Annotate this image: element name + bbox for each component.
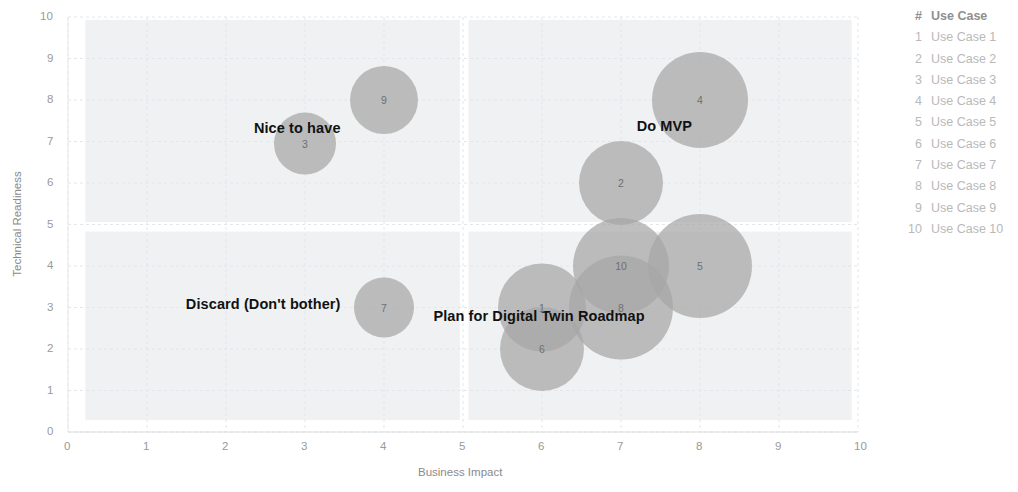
legend-row-num: 9 [898,198,931,219]
x-tick-0: 0 [64,440,70,452]
bubble-chart-page: Business Impact Technical Readiness 0123… [0,0,1018,492]
use-case-legend: # Use Case 1Use Case 12Use Case 23Use Ca… [898,6,1016,240]
x-tick-10: 10 [854,440,867,452]
legend-row-label: Use Case 10 [931,219,1016,240]
quadrant-label-discard: Discard (Don't bother) [186,296,341,312]
x-tick-4: 4 [380,440,386,452]
bubble-label-7: 7 [381,302,387,314]
x-tick-7: 7 [617,440,623,452]
bubble-label-3: 3 [302,138,308,150]
legend-row-label: Use Case 6 [931,134,1016,155]
legend-row[interactable]: 3Use Case 3 [898,70,1016,91]
y-tick-5: 5 [47,218,53,230]
y-tick-9: 9 [47,52,53,64]
bubble-label-4: 4 [697,94,703,106]
legend-header-num: # [898,6,931,27]
legend-row-num: 8 [898,176,931,197]
legend-row[interactable]: 2Use Case 2 [898,49,1016,70]
x-axis-title: Business Impact [418,466,502,478]
legend-row-num: 1 [898,27,931,48]
legend-row-num: 7 [898,155,931,176]
legend-row-label: Use Case 9 [931,198,1016,219]
legend-row-num: 10 [898,219,931,240]
legend-row-label: Use Case 7 [931,155,1016,176]
legend-row-label: Use Case 4 [931,91,1016,112]
y-tick-1: 1 [47,384,53,396]
x-tick-5: 5 [459,440,465,452]
x-tick-1: 1 [143,440,149,452]
y-tick-10: 10 [40,10,53,22]
bubble-label-1: 1 [539,302,545,314]
legend-header-label: Use Case [931,6,1016,27]
legend-row-num: 5 [898,112,931,133]
chart-plot-area [0,0,1018,492]
legend-row-label: Use Case 5 [931,112,1016,133]
y-tick-4: 4 [47,259,53,271]
bubble-label-2: 2 [618,177,624,189]
legend-row-num: 4 [898,91,931,112]
legend-row[interactable]: 6Use Case 6 [898,134,1016,155]
quadrant-label-do-mvp: Do MVP [637,118,692,134]
legend-row[interactable]: 4Use Case 4 [898,91,1016,112]
legend-row[interactable]: 1Use Case 1 [898,27,1016,48]
y-tick-3: 3 [47,301,53,313]
bubble-label-8: 8 [618,302,624,314]
legend-header-row: # Use Case [898,6,1016,27]
legend-row-label: Use Case 3 [931,70,1016,91]
x-tick-6: 6 [538,440,544,452]
legend-row-label: Use Case 2 [931,49,1016,70]
bubble-label-5: 5 [697,260,703,272]
legend-row[interactable]: 7Use Case 7 [898,155,1016,176]
legend-row-num: 3 [898,70,931,91]
bubble-label-9: 9 [381,94,387,106]
y-tick-6: 6 [47,176,53,188]
bubble-label-6: 6 [539,343,545,355]
legend-row[interactable]: 8Use Case 8 [898,176,1016,197]
legend-row-num: 6 [898,134,931,155]
x-tick-3: 3 [301,440,307,452]
y-tick-8: 8 [47,93,53,105]
x-tick-9: 9 [775,440,781,452]
y-tick-2: 2 [47,342,53,354]
x-tick-8: 8 [696,440,702,452]
y-tick-0: 0 [47,425,53,437]
y-tick-7: 7 [47,135,53,147]
legend-row[interactable]: 10Use Case 10 [898,219,1016,240]
quadrant-label-nice-to-have: Nice to have [254,120,341,136]
x-tick-2: 2 [222,440,228,452]
y-axis-title: Technical Readiness [11,171,23,276]
bubble-label-10: 10 [615,260,627,272]
legend-row-label: Use Case 8 [931,176,1016,197]
legend-row-label: Use Case 1 [931,27,1016,48]
legend-row-num: 2 [898,49,931,70]
legend-row[interactable]: 9Use Case 9 [898,198,1016,219]
legend-row[interactable]: 5Use Case 5 [898,112,1016,133]
